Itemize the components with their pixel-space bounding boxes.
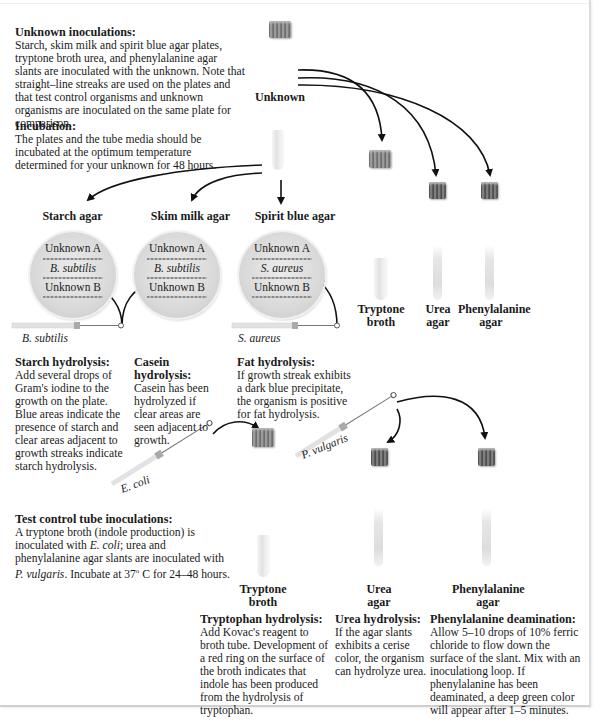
lower-urea-agar-tube-icon xyxy=(374,508,383,566)
casein-hydrolysis-block: Casein hydrolysis: Casein has been hydro… xyxy=(134,356,220,447)
starch-hydrolysis-heading: Starch hydrolysis: xyxy=(15,356,127,369)
phenylalanine-agar-tube-icon xyxy=(485,245,494,300)
label-line2: broth xyxy=(235,596,291,609)
unknown-inoculations-block: Unknown inoculations: Starch, skim milk … xyxy=(15,26,245,130)
urea-agar-tube-icon xyxy=(433,245,442,300)
test-control-text: C for 24–48 hours. xyxy=(139,568,230,581)
plate-row-unknown-b: Unknown B xyxy=(239,281,325,294)
unknown-inoculations-body: Starch, skim milk and spirit blue agar p… xyxy=(15,39,245,130)
lower-label-phenylalanine-agar: Phenylalanine agar xyxy=(452,583,524,609)
upper-label-phenylalanine-agar: Phenylalanine agar xyxy=(458,303,524,329)
label-line2: agar xyxy=(418,316,458,329)
upper-label-urea-agar: Urea agar xyxy=(418,303,458,329)
skim-milk-agar-plate: Unknown A B. subtilis Unknown B xyxy=(134,232,220,318)
test-control-heading: Test control tube inoculations: xyxy=(15,513,230,526)
test-control-block: Test control tube inoculations: A trypto… xyxy=(15,513,230,581)
plate-row-unknown-a: Unknown A xyxy=(239,242,325,255)
lower-tryptone-broth-tube-icon xyxy=(257,535,270,577)
starch-hydrolysis-block: Starch hydrolysis: Add several drops of … xyxy=(15,356,127,473)
plate-row-control: B. subtilis xyxy=(134,262,220,275)
label-line2: agar xyxy=(452,596,524,609)
tryptophan-hydrolysis-body: Add Kovac's reagent to broth tube. Devel… xyxy=(200,626,328,717)
incubation-heading: Incubation: xyxy=(15,120,245,133)
label-line2: agar xyxy=(458,316,524,329)
label-line2: agar xyxy=(359,596,399,609)
loop-label-b-subtilis: B. subtilis xyxy=(22,332,68,344)
fat-hydrolysis-heading: Fat hydrolysis: xyxy=(237,356,357,369)
lower-urea-agar-cap-icon xyxy=(371,448,388,466)
organism-p-vulgaris: P. vulgaris xyxy=(15,568,64,581)
plate-title-skim-milk: Skim milk agar xyxy=(138,210,243,223)
plate-row-unknown-a: Unknown A xyxy=(134,242,220,255)
phenylalanine-deamination-body: Allow 5–10 drops of 10% ferric chloride … xyxy=(430,626,580,717)
plate-row-control: S. aureus xyxy=(239,262,325,275)
urea-hydrolysis-body: If the agar slants exhibits a cerise col… xyxy=(335,626,426,678)
unknown-inoculations-heading: Unknown inoculations: xyxy=(15,26,245,39)
lower-phenylalanine-agar-tube-icon xyxy=(482,508,491,566)
loop-label-s-aureus: S. aureus xyxy=(238,332,280,344)
upper-label-tryptone-broth: Tryptone broth xyxy=(355,303,407,329)
lower-label-urea-agar: Urea agar xyxy=(359,583,399,609)
phenylalanine-deamination-block: Phenylalanine deamination: Allow 5–10 dr… xyxy=(430,613,586,717)
unknown-tube-icon xyxy=(272,130,284,170)
unknown-tube-cap-icon xyxy=(269,21,291,38)
lower-phenylalanine-agar-cap-icon xyxy=(478,448,495,466)
test-control-text: . Incubate at 37 xyxy=(64,568,135,581)
phenylalanine-deamination-heading: Phenylalanine deamination: xyxy=(430,613,586,626)
unknown-label: Unknown xyxy=(250,91,310,104)
casein-hydrolysis-body: Casein has been hydrolyzed if clear area… xyxy=(134,382,209,447)
tryptophan-hydrolysis-heading: Tryptophan hydrolysis: xyxy=(200,613,332,626)
urea-hydrolysis-block: Urea hydrolysis: If the agar slants exhi… xyxy=(335,613,427,678)
plate-row-unknown-a: Unknown A xyxy=(30,242,116,255)
tryptophan-hydrolysis-block: Tryptophan hydrolysis: Add Kovac's reage… xyxy=(200,613,332,717)
starch-agar-plate: Unknown A B. subtilis Unknown B xyxy=(30,232,116,318)
plate-row-unknown-b: Unknown B xyxy=(30,281,116,294)
lower-label-tryptone-broth: Tryptone broth xyxy=(235,583,291,609)
lower-tryptone-broth-cap-icon xyxy=(252,428,274,447)
plate-row-unknown-b: Unknown B xyxy=(134,281,220,294)
starch-hydrolysis-body: Add several drops of Gram's iodine to th… xyxy=(15,369,123,473)
organism-e-coli: E. coli xyxy=(90,539,120,552)
tryptone-broth-cap-icon xyxy=(369,150,391,168)
incubation-block: Incubation: The plates and the tube medi… xyxy=(15,120,245,172)
urea-hydrolysis-heading: Urea hydrolysis: xyxy=(335,613,427,626)
urea-agar-cap-icon xyxy=(429,182,446,199)
casein-hydrolysis-heading: Casein hydrolysis: xyxy=(134,356,220,382)
phenylalanine-agar-cap-icon xyxy=(481,182,498,199)
spirit-blue-agar-plate: Unknown A S. aureus Unknown B xyxy=(239,232,325,318)
fat-hydrolysis-body: If growth streak exhibits a dark blue pr… xyxy=(237,369,351,421)
plate-title-spirit-blue: Spirit blue agar xyxy=(240,210,350,223)
plate-title-starch: Starch agar xyxy=(20,210,125,223)
plate-row-control: B. subtilis xyxy=(30,262,116,275)
incubation-body: The plates and the tube media should be … xyxy=(15,133,216,172)
tryptone-broth-tube-icon xyxy=(374,258,388,300)
fat-hydrolysis-block: Fat hydrolysis: If growth streak exhibit… xyxy=(237,356,357,421)
label-line2: broth xyxy=(355,316,407,329)
